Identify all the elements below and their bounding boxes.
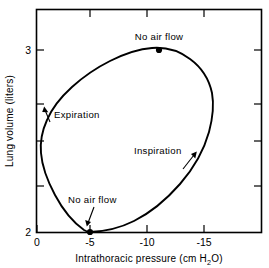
y-tick-label-3: 3: [25, 44, 31, 56]
expiration-label: Expiration: [54, 109, 100, 120]
y-axis-ticks-right: [254, 50, 261, 186]
no-air-flow-top-marker: [156, 47, 162, 53]
pressure-volume-loop-chart: 0 -5 -10 -15 3 2 Lung volume (liters) In…: [0, 0, 269, 268]
chart-figure: 0 -5 -10 -15 3 2 Lung volume (liters) In…: [0, 0, 269, 268]
no-air-flow-top-label: No air flow: [135, 31, 184, 42]
pv-loop-curve: [41, 48, 213, 232]
inspiration-arrow-icon: [183, 152, 197, 169]
x-axis-ticks-top: [90, 10, 204, 17]
x-tick-label-minus15: -15: [196, 236, 211, 248]
y-tick-label-2: 2: [25, 226, 31, 238]
y-axis-title: Lung volume (liters): [4, 75, 15, 167]
x-axis-title-main: Intrathoracic pressure (cm H: [75, 253, 207, 264]
x-axis-title: Intrathoracic pressure (cm H2O): [75, 253, 222, 267]
no-air-flow-bottom-label: No air flow: [68, 194, 117, 205]
no-air-flow-bottom-marker: [87, 229, 93, 235]
x-tick-label-minus10: -10: [139, 236, 154, 248]
x-tick-label-minus5: -5: [85, 236, 94, 248]
x-tick-label-0: 0: [34, 236, 40, 248]
x-axis-title-tail: O): [211, 253, 223, 264]
no-air-flow-bottom-arrow-icon: [85, 207, 94, 227]
inspiration-label: Inspiration: [134, 145, 182, 156]
